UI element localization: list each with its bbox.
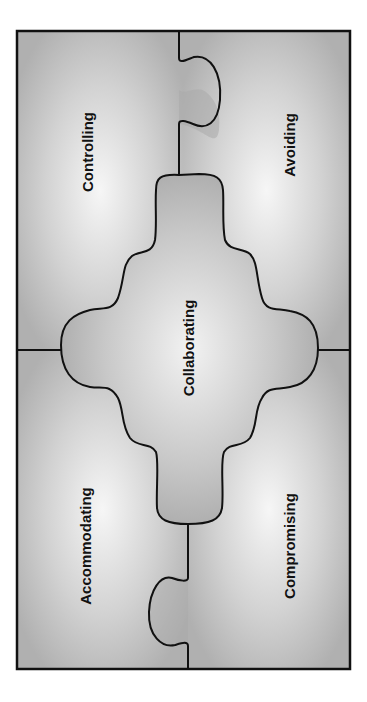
label-collaborating: Collaborating (180, 300, 197, 397)
label-avoiding: Avoiding (281, 113, 298, 177)
label-compromising: Compromising (281, 493, 298, 599)
puzzle-diagram: Controlling Avoiding Collaborating Accom… (0, 0, 367, 702)
label-controlling: Controlling (79, 112, 96, 192)
label-accommodating: Accommodating (77, 487, 94, 605)
